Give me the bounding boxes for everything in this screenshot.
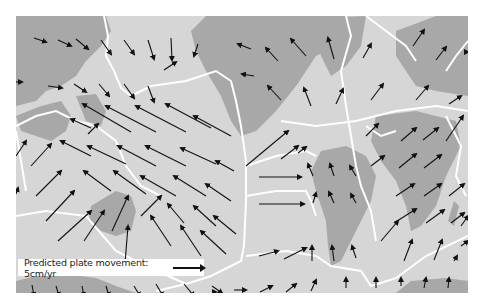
- legend-label: Predicted plate movement: 5cm/yr: [24, 257, 168, 279]
- legend: Predicted plate movement: 5cm/yr: [18, 259, 204, 276]
- map-graphic: [16, 16, 468, 293]
- plate-movement-map: [16, 16, 468, 293]
- legend-arrow-icon: [173, 267, 204, 269]
